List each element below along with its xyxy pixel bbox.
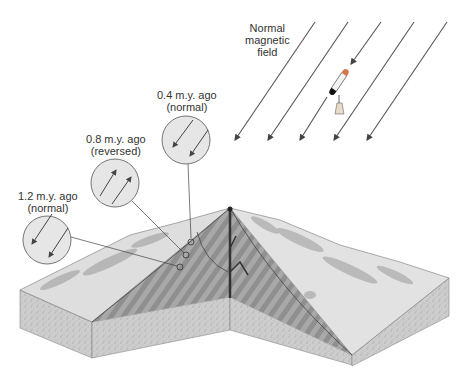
field-label-line1: Normal [245,22,290,34]
field-label-line2: magnetic [245,34,290,46]
sample-polarity: (reversed) [86,145,146,157]
sample-age: 1.2 m.y. ago [18,190,78,202]
sample-age: 0.8 m.y. ago [86,133,146,145]
seafloor-diagram [0,0,458,374]
sample-label-1.2: 1.2 m.y. ago (normal) [18,190,78,214]
sample-polarity: (normal) [18,202,78,214]
sample-label-0.4: 0.4 m.y. ago (normal) [157,89,217,113]
seafloor-block [20,207,449,367]
sample-label-0.8: 0.8 m.y. ago (reversed) [86,133,146,157]
compass-icon [328,68,350,114]
field-label: Normal magnetic field [245,22,290,58]
sample-polarity: (normal) [157,101,217,113]
sample-age: 0.4 m.y. ago [157,89,217,101]
field-label-line3: field [245,46,290,58]
